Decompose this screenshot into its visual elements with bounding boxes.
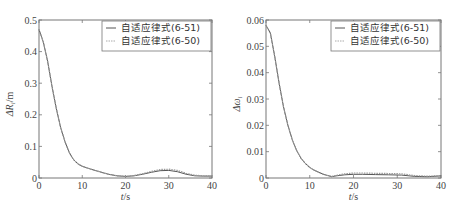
y-tick-label: 0.2 xyxy=(25,109,38,120)
x-tick-label: 20 xyxy=(349,180,359,191)
series-line-1 xyxy=(39,30,212,177)
x-tick-label: 30 xyxy=(164,180,174,191)
y-tick-label: 0.02 xyxy=(247,120,265,131)
legend: 自适应律式(6-51)自适应律式(6-50) xyxy=(102,21,211,51)
figure: 01020304000.10.20.30.40.5自适应律式(6-51)自适应律… xyxy=(0,0,455,214)
y-tick-label: 0.4 xyxy=(25,46,38,57)
y-tick-label: 0.01 xyxy=(247,146,265,157)
x-axis-label: t/s xyxy=(121,191,131,202)
x-axis-label: t/s xyxy=(349,191,359,202)
x-tick-label: 40 xyxy=(436,180,446,191)
y-tick-label: 0.1 xyxy=(25,141,38,152)
x-tick-label: 0 xyxy=(37,180,42,191)
legend-entry: 自适应律式(6-51) xyxy=(350,22,429,33)
x-tick-label: 10 xyxy=(77,180,87,191)
legend: 自适应律式(6-51)自适应律式(6-50) xyxy=(331,21,440,51)
y-tick-label: 0 xyxy=(259,173,264,184)
legend-entry: 自适应律式(6-51) xyxy=(121,22,200,33)
y-tick-label: 0.04 xyxy=(247,67,265,78)
x-tick-label: 30 xyxy=(392,180,402,191)
legend-entry: 自适应律式(6-50) xyxy=(121,35,200,46)
left-plot: 01020304000.10.20.30.40.5自适应律式(6-51)自适应律… xyxy=(4,15,217,203)
y-tick-label: 0.3 xyxy=(25,78,38,89)
x-tick-label: 10 xyxy=(305,180,315,191)
y-tick-label: 0.03 xyxy=(247,94,265,105)
series-line-0 xyxy=(39,30,212,177)
y-tick-label: 0 xyxy=(32,173,37,184)
x-tick-label: 40 xyxy=(207,180,217,191)
y-axis-label: Δωi xyxy=(231,97,244,113)
y-tick-label: 0.06 xyxy=(247,15,265,26)
legend-entry: 自适应律式(6-50) xyxy=(350,35,429,46)
y-tick-label: 0.05 xyxy=(247,41,265,52)
y-tick-label: 0.5 xyxy=(25,15,38,26)
right-plot: 01020304000.010.020.030.040.050.06自适应律式(… xyxy=(231,15,446,203)
x-tick-label: 20 xyxy=(121,180,131,191)
x-tick-label: 0 xyxy=(264,180,269,191)
y-axis-label: ΔRi/m xyxy=(4,92,17,118)
